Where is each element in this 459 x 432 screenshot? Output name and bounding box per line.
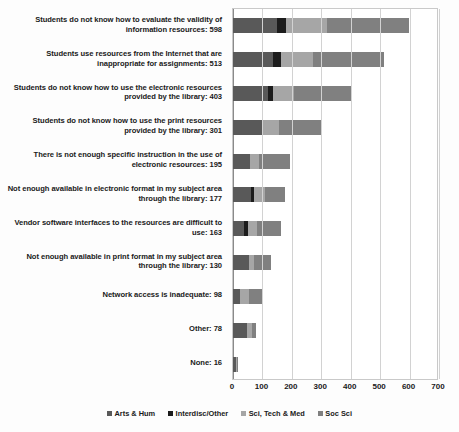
- bar-segment-soc-sci: [327, 18, 409, 33]
- gridline-300: [321, 9, 322, 379]
- bar-segment-soc-sci: [313, 52, 384, 67]
- bar-row: [233, 9, 439, 43]
- category-label: Vendor software interfaces to the resour…: [0, 218, 222, 238]
- legend-swatch-icon: [318, 411, 323, 416]
- x-tick-label-400: 400: [343, 382, 356, 391]
- category-label: Students do not know how to use the elec…: [0, 83, 222, 103]
- bar-row: [233, 144, 439, 178]
- bar-segment-soc-sci: [257, 221, 281, 236]
- x-axis-ticks: 0100200300400500600700: [232, 382, 438, 396]
- bar-segment-sci-tech-med: [262, 120, 279, 135]
- bar-segment-interdisc-other: [273, 52, 281, 67]
- bar-segment-soc-sci: [252, 323, 256, 338]
- bar-segment-sci-tech-med: [281, 52, 313, 67]
- legend-label: Arts & Hum: [114, 409, 155, 418]
- x-tick-label-700: 700: [431, 382, 444, 391]
- category-label: Students use resources from the Internet…: [0, 49, 222, 69]
- category-label: Students do not know how to evaluate the…: [0, 15, 222, 35]
- bar-segment-arts-hum: [233, 154, 250, 169]
- bar-segment-soc-sci: [259, 154, 290, 169]
- bar-segment-sci-tech-med: [240, 289, 248, 304]
- legend-item[interactable]: Arts & Hum: [107, 409, 155, 418]
- stacked-bar: [233, 323, 256, 338]
- gridline-500: [380, 9, 381, 379]
- bar-row: [233, 77, 439, 111]
- legend-label: Sci, Tech & Med: [249, 409, 305, 418]
- category-label: Not enough available in electronic forma…: [0, 184, 222, 204]
- bar-segment-arts-hum: [233, 323, 247, 338]
- bar-row: [233, 313, 439, 347]
- x-tick-label-300: 300: [314, 382, 327, 391]
- category-label: Not enough available in print format in …: [0, 252, 222, 272]
- bar-segment-arts-hum: [233, 187, 251, 202]
- legend-item[interactable]: Interdisc/Other: [168, 409, 228, 418]
- stacked-bar-chart: Students do not know how to evaluate the…: [0, 0, 459, 432]
- gridline-100: [262, 9, 263, 379]
- stacked-bar: [233, 357, 238, 372]
- x-tick-label-200: 200: [284, 382, 297, 391]
- bar-segment-arts-hum: [233, 18, 277, 33]
- category-label-column: Students do not know how to evaluate the…: [0, 8, 226, 380]
- stacked-bar: [233, 221, 281, 236]
- bar-segment-soc-sci: [249, 289, 262, 304]
- category-label: None: 16: [0, 358, 222, 368]
- stacked-bar: [233, 255, 271, 270]
- category-label: There is not enough specific instruction…: [0, 150, 222, 170]
- bar-segment-interdisc-other: [277, 18, 287, 33]
- legend-swatch-icon: [107, 411, 112, 416]
- bar-segment-arts-hum: [233, 120, 262, 135]
- legend-item[interactable]: Sci, Tech & Med: [241, 409, 305, 418]
- category-label: Network access is inadequate: 98: [0, 290, 222, 300]
- legend-item[interactable]: Soc Sci: [318, 409, 352, 418]
- legend-label: Soc Sci: [325, 409, 352, 418]
- chart-legend: Arts & HumInterdisc/OtherSci, Tech & Med…: [0, 409, 459, 418]
- bar-segment-soc-sci: [265, 187, 285, 202]
- bar-row: [233, 178, 439, 212]
- bar-segment-arts-hum: [233, 255, 249, 270]
- stacked-bar: [233, 120, 322, 135]
- bar-row: [233, 110, 439, 144]
- legend-label: Interdisc/Other: [176, 409, 229, 418]
- bar-row: [233, 280, 439, 314]
- legend-swatch-icon: [168, 411, 173, 416]
- gridline-400: [351, 9, 352, 379]
- bar-segment-sci-tech-med: [250, 154, 259, 169]
- gridline-700: [439, 9, 440, 379]
- bar-rows: [233, 9, 437, 379]
- x-tick-label-500: 500: [372, 382, 385, 391]
- x-tick-label-600: 600: [402, 382, 415, 391]
- bar-row: [233, 43, 439, 77]
- bar-segment-soc-sci: [237, 357, 238, 372]
- bar-segment-arts-hum: [233, 52, 273, 67]
- x-tick-label-100: 100: [255, 382, 268, 391]
- bar-segment-arts-hum: [233, 289, 240, 304]
- bar-row: [233, 347, 439, 381]
- bar-row: [233, 246, 439, 280]
- bar-segment-soc-sci: [279, 120, 321, 135]
- stacked-bar: [233, 289, 262, 304]
- x-tick-label-0: 0: [230, 382, 234, 391]
- category-label: Students do not know how to use the prin…: [0, 116, 222, 136]
- category-label: Other: 78: [0, 324, 222, 334]
- bar-segment-soc-sci: [294, 86, 352, 101]
- bar-segment-sci-tech-med: [248, 221, 258, 236]
- stacked-bar: [233, 52, 384, 67]
- plot-area: [232, 8, 438, 380]
- gridline-200: [292, 9, 293, 379]
- legend-swatch-icon: [241, 411, 246, 416]
- bar-row: [233, 212, 439, 246]
- stacked-bar: [233, 187, 285, 202]
- bar-segment-arts-hum: [233, 221, 244, 236]
- bar-segment-sci-tech-med: [273, 86, 294, 101]
- gridline-600: [410, 9, 411, 379]
